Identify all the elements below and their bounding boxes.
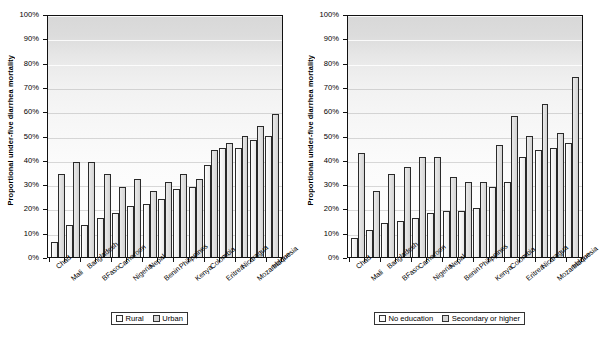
bar-group xyxy=(488,16,503,257)
bar xyxy=(81,225,88,257)
y-axis-tick-label: 90% xyxy=(303,35,339,43)
bar-group xyxy=(549,16,564,257)
bar xyxy=(257,126,264,257)
bar-group xyxy=(81,16,96,257)
x-axis-tick-label: Mali xyxy=(369,268,385,283)
y-axis-tick-label: 10% xyxy=(3,230,39,238)
bar-group xyxy=(234,16,249,257)
y-axis-tick-label: 50% xyxy=(3,133,39,141)
legend-box-right: No education Secondary or higher xyxy=(374,312,525,325)
y-axis-tick-label: 70% xyxy=(3,84,39,92)
y-axis-tick-mark xyxy=(43,234,47,235)
y-axis-tick-mark xyxy=(43,137,47,138)
y-axis-tick-mark xyxy=(43,185,47,186)
y-axis-tick-mark xyxy=(343,15,347,16)
legend-swatch-icon-urban xyxy=(153,315,160,322)
bar-group xyxy=(188,16,203,257)
y-axis-tick-mark xyxy=(343,209,347,210)
legend-label-no-education: No education xyxy=(388,315,433,323)
y-axis-tick-label: 30% xyxy=(303,181,339,189)
bar xyxy=(511,116,518,257)
bar-group xyxy=(381,16,396,257)
bar xyxy=(189,187,196,257)
bar-group xyxy=(203,16,218,257)
x-axis-labels-right: ChadMaliBangladeshBFasoCameroonNigeriaNe… xyxy=(338,259,596,305)
legend-label-urban: Urban xyxy=(162,315,183,323)
bar-group xyxy=(96,16,111,257)
bar xyxy=(542,104,549,257)
bar xyxy=(458,211,465,257)
bar xyxy=(557,133,564,257)
y-axis-tick-mark xyxy=(343,112,347,113)
bar-group xyxy=(503,16,518,257)
bar xyxy=(489,187,496,257)
x-axis-tick-label: Mali xyxy=(69,268,85,283)
bar xyxy=(381,223,388,257)
legend-swatch-icon-secondary-or-higher xyxy=(442,315,449,322)
bar xyxy=(165,182,172,257)
panel-education: Proportional under-five diarrhea mortali… xyxy=(300,0,599,337)
y-axis-tick-label: 20% xyxy=(303,205,339,213)
bar-group xyxy=(350,16,365,257)
bar-group xyxy=(249,16,264,257)
y-axis-tick-mark xyxy=(343,64,347,65)
figure-two-panel-bar-charts: Proportional under-five diarrhea mortali… xyxy=(0,0,599,337)
bar xyxy=(572,77,579,257)
bar xyxy=(242,136,249,258)
bar-group xyxy=(442,16,457,257)
bar-group xyxy=(473,16,488,257)
bar-group xyxy=(50,16,65,257)
y-axis-tick-label: 80% xyxy=(303,60,339,68)
legend-item-rural: Rural xyxy=(116,315,144,323)
bar-group-container-left xyxy=(48,16,282,257)
bar xyxy=(235,148,242,257)
bar-group xyxy=(173,16,188,257)
bar-group xyxy=(457,16,472,257)
y-axis-tick-label: 10% xyxy=(303,230,339,238)
bar xyxy=(58,174,65,257)
bar xyxy=(450,177,457,257)
bar-group xyxy=(534,16,549,257)
bar-group xyxy=(519,16,534,257)
bar-group xyxy=(65,16,80,257)
bar xyxy=(526,136,533,258)
bar xyxy=(173,189,180,257)
bar xyxy=(150,191,157,257)
legend-right: No education Secondary or higher xyxy=(300,312,599,325)
y-axis-tick-label: 0% xyxy=(303,254,339,262)
bar xyxy=(419,157,426,257)
legend-label-secondary-or-higher: Secondary or higher xyxy=(452,315,520,323)
y-axis-tick-mark xyxy=(43,161,47,162)
legend-label-rural: Rural xyxy=(126,315,144,323)
y-axis-tick-label: 90% xyxy=(3,35,39,43)
bar xyxy=(73,162,80,257)
bar-group xyxy=(142,16,157,257)
bar-group xyxy=(411,16,426,257)
y-axis-tick-mark xyxy=(343,185,347,186)
y-axis-tick-mark xyxy=(343,234,347,235)
x-axis-labels-left: ChadMaliBangladeshBFasoCameroonNigeriaNe… xyxy=(38,259,296,305)
bar xyxy=(496,145,503,257)
y-axis-tick-mark xyxy=(43,64,47,65)
bar xyxy=(373,191,380,257)
bar xyxy=(211,150,218,257)
bar xyxy=(465,182,472,257)
bar xyxy=(265,136,272,258)
legend-left: Rural Urban xyxy=(0,312,299,325)
bar xyxy=(226,143,233,257)
bar xyxy=(250,140,257,257)
bar-group xyxy=(427,16,442,257)
y-axis-tick-mark xyxy=(43,15,47,16)
bar xyxy=(219,148,226,257)
bar xyxy=(388,174,395,257)
y-axis-tick-mark xyxy=(43,209,47,210)
bar xyxy=(480,182,487,257)
y-axis-tick-label: 60% xyxy=(303,108,339,116)
y-axis-tick-label: 40% xyxy=(3,157,39,165)
y-axis-tick-label: 30% xyxy=(3,181,39,189)
y-axis-tick-label: 50% xyxy=(303,133,339,141)
legend-swatch-icon-rural xyxy=(116,315,123,322)
plot-area-right xyxy=(347,15,583,258)
y-axis-tick-mark xyxy=(343,161,347,162)
bar xyxy=(158,199,165,257)
